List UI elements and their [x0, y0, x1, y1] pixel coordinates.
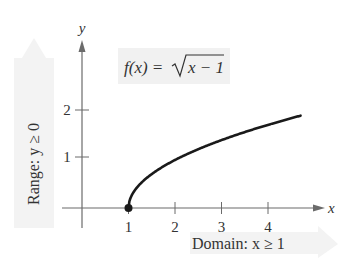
function-label-radicand: x − 1: [187, 58, 224, 77]
function-curve: [129, 116, 301, 208]
range-label: Range: y ≥ 0: [25, 123, 43, 205]
function-graph: 1 2 3 4 1 2 y x f(x) = x − 1 Range: y ≥ …: [0, 0, 345, 260]
start-point-dot: [125, 204, 133, 212]
y-axis-label: y: [77, 20, 86, 36]
y-axis: [79, 40, 86, 228]
x-tick-label-2: 2: [171, 219, 179, 235]
y-tick-label-2: 2: [63, 102, 71, 118]
x-tick-label-1: 1: [125, 219, 133, 235]
function-label-prefix: f(x) =: [124, 58, 168, 77]
x-tick-label-4: 4: [264, 219, 272, 235]
x-axis-label: x: [327, 200, 335, 216]
domain-label: Domain: x ≥ 1: [192, 235, 285, 252]
x-tick-label-3: 3: [218, 219, 226, 235]
y-axis-arrow-icon: [79, 40, 86, 52]
y-tick-label-1: 1: [63, 149, 71, 165]
x-axis: [62, 205, 325, 212]
x-axis-arrow-icon: [313, 205, 325, 212]
